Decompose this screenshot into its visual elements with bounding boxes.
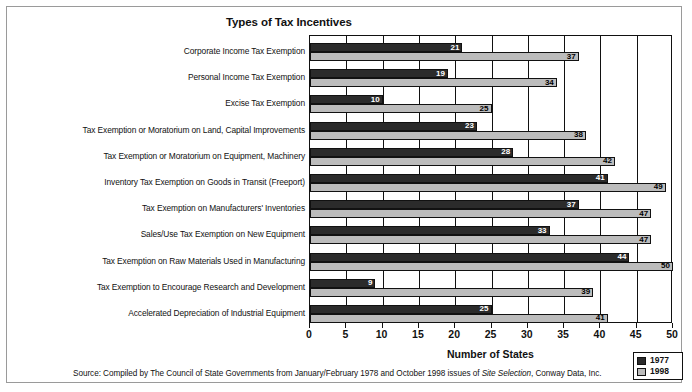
category-label: Personal Income Tax Exemption (67, 73, 305, 81)
bar-1977[interactable]: 44 (310, 253, 629, 262)
bar-value-label: 41 (596, 174, 605, 182)
category-label: Corporate Income Tax Exemption (67, 47, 305, 55)
legend-swatch-1977 (637, 357, 646, 365)
bar-series-container: 2137193410252338284241493747334744509392… (310, 36, 671, 322)
source-note: Source: Compiled by The Council of State… (73, 369, 602, 378)
bar-1977[interactable]: 25 (310, 305, 492, 314)
bar-value-label: 21 (451, 44, 460, 52)
bar-1998[interactable]: 50 (310, 262, 673, 271)
x-axis-tick-labels: 05101520253035404550 (309, 328, 672, 342)
bar-1998[interactable]: 47 (310, 209, 651, 218)
source-suffix: , Conway Data, Inc. (531, 369, 602, 378)
source-prefix: Source: Compiled by The Council of State… (73, 369, 482, 378)
bar-group: 1025 (310, 88, 671, 114)
category-label: Tax Exemption on Raw Materials Used in M… (67, 257, 305, 265)
bar-1998[interactable]: 47 (310, 235, 651, 244)
bar-1977[interactable]: 19 (310, 69, 448, 78)
x-tick-label: 25 (485, 328, 497, 340)
bar-1977[interactable]: 37 (310, 200, 579, 209)
legend-item[interactable]: 1977 (637, 355, 679, 366)
x-tick-label: 20 (448, 328, 460, 340)
bar-value-label: 33 (538, 227, 547, 235)
bar-1977[interactable]: 28 (310, 148, 513, 157)
source-italic-title: Site Selection (482, 369, 531, 378)
bar-1977[interactable]: 9 (310, 279, 375, 288)
x-tick-label: 15 (412, 328, 424, 340)
bar-value-label: 39 (581, 288, 590, 296)
x-tick-label: 35 (557, 328, 569, 340)
bar-value-label: 38 (574, 131, 583, 139)
bar-group: 2842 (310, 141, 671, 167)
bar-1998[interactable]: 41 (310, 314, 608, 323)
bar-group: 2541 (310, 298, 671, 324)
category-label: Accelerated Depreciation of Industrial E… (67, 309, 305, 317)
bar-1977[interactable]: 33 (310, 226, 550, 235)
legend-label: 1977 (650, 356, 669, 365)
bar-value-label: 41 (596, 314, 605, 322)
bar-1998[interactable]: 49 (310, 183, 666, 192)
bar-value-label: 25 (480, 305, 489, 313)
bar-group: 2137 (310, 36, 671, 62)
bar-1998[interactable]: 38 (310, 131, 586, 140)
bar-1977[interactable]: 21 (310, 43, 462, 52)
bar-group: 4450 (310, 245, 671, 271)
category-axis-labels: Corporate Income Tax ExemptionPersonal I… (67, 35, 305, 323)
bar-value-label: 49 (654, 183, 663, 191)
chart-frame: Types of Tax Incentives Corporate Income… (6, 6, 682, 383)
bar-1977[interactable]: 23 (310, 122, 477, 131)
x-axis-title: Number of States (309, 348, 672, 360)
plot-area: 2137193410252338284241493747334744509392… (309, 35, 672, 323)
bar-value-label: 25 (480, 105, 489, 113)
bar-value-label: 47 (639, 210, 648, 218)
bar-value-label: 37 (567, 201, 576, 209)
x-tick-label: 30 (521, 328, 533, 340)
category-label: Tax Exemption or Moratorium on Land, Cap… (67, 126, 305, 134)
bar-value-label: 47 (639, 236, 648, 244)
category-label: Tax Exemption to Encourage Research and … (67, 283, 305, 291)
legend-swatch-1998 (637, 368, 646, 376)
bar-1998[interactable]: 39 (310, 288, 593, 297)
legend-label: 1998 (650, 367, 669, 376)
bar-group: 4149 (310, 167, 671, 193)
bar-value-label: 9 (368, 279, 372, 287)
x-tick-label: 0 (306, 328, 312, 340)
bar-1998[interactable]: 25 (310, 104, 492, 113)
x-tick-label: 45 (630, 328, 642, 340)
bar-1998[interactable]: 37 (310, 52, 579, 61)
bar-value-label: 42 (603, 157, 612, 165)
x-tick-label: 40 (594, 328, 606, 340)
chart-title: Types of Tax Incentives (226, 16, 352, 28)
bar-group: 3347 (310, 219, 671, 245)
category-label: Excise Tax Exemption (67, 99, 305, 107)
bar-value-label: 37 (567, 53, 576, 61)
bar-group: 2338 (310, 115, 671, 141)
x-tick-label: 10 (376, 328, 388, 340)
bar-value-label: 44 (618, 253, 627, 261)
bar-value-label: 23 (465, 122, 474, 130)
category-label: Inventory Tax Exemption on Goods in Tran… (67, 178, 305, 186)
x-tick-label: 50 (666, 328, 678, 340)
bar-value-label: 50 (661, 262, 670, 270)
bar-1977[interactable]: 10 (310, 95, 383, 104)
bar-value-label: 28 (501, 148, 510, 156)
bar-group: 3747 (310, 193, 671, 219)
bar-1998[interactable]: 42 (310, 157, 615, 166)
x-tick-label: 5 (342, 328, 348, 340)
category-label: Tax Exemption or Moratorium on Equipment… (67, 152, 305, 160)
bar-group: 1934 (310, 62, 671, 88)
bar-group: 939 (310, 272, 671, 298)
bar-value-label: 34 (545, 79, 554, 87)
bar-value-label: 19 (436, 70, 445, 78)
bar-value-label: 10 (371, 96, 380, 104)
chart-legend: 19771998 (633, 352, 683, 380)
legend-item[interactable]: 1998 (637, 366, 679, 377)
category-label: Tax Exemption on Manufacturers' Inventor… (67, 204, 305, 212)
bar-1998[interactable]: 34 (310, 78, 557, 87)
category-label: Sales/Use Tax Exemption on New Equipment (67, 230, 305, 238)
bar-1977[interactable]: 41 (310, 174, 608, 183)
